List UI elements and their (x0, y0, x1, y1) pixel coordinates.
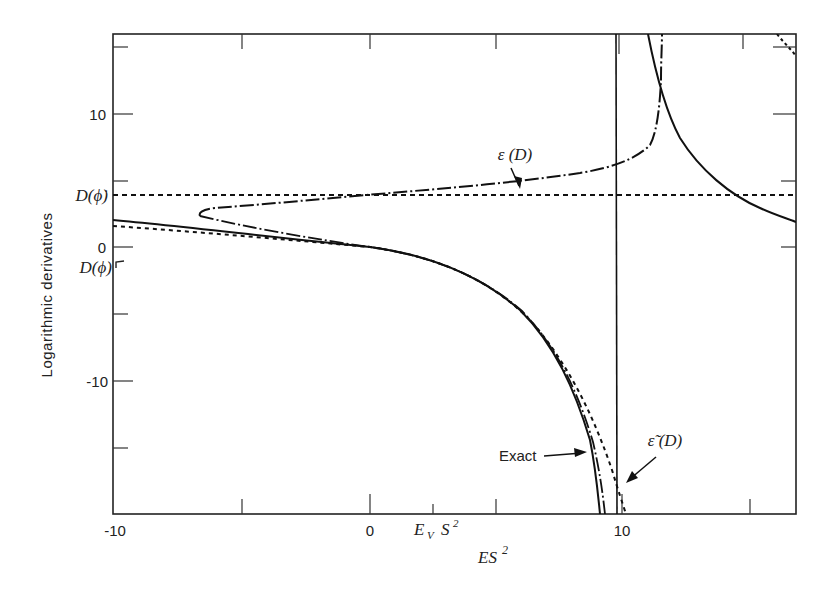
x-axis-title: ES 2 (477, 543, 508, 567)
y-tick-label-minus-10: -10 (86, 373, 108, 390)
epsilon-curve-lower (200, 216, 605, 514)
exact-curve (113, 220, 600, 514)
exact-arrowhead-icon (574, 448, 587, 457)
d-phidot-label: D(ϕ̇) (75, 186, 109, 205)
epsilon-annotation-label: ε (D) (498, 145, 533, 164)
epsilon-curve-upper (200, 34, 662, 216)
exact-curve-upper (648, 34, 796, 222)
svg-text:E: E (413, 520, 425, 539)
y-axis-ticks (113, 47, 133, 448)
x-tick-label-0: 0 (366, 522, 374, 539)
exact-annotation-label: Exact (499, 447, 537, 464)
plot-frame (113, 34, 796, 514)
y-axis-title: Logarithmic derivatives (38, 213, 55, 378)
svg-text:ES: ES (477, 548, 497, 567)
x-axis-ticks (242, 494, 750, 514)
epsilon-tilde-upper-fragment (777, 34, 796, 56)
asymptote-line (616, 34, 617, 514)
y-tick-label-10: 10 (89, 106, 106, 123)
x-tick-label-10: 10 (614, 522, 631, 539)
svg-text:V: V (427, 529, 435, 541)
svg-text:S: S (441, 520, 450, 539)
epsilon-tilde-annotation-label: ε̃ (D) (648, 431, 683, 450)
y-tick-label-0: 0 (98, 239, 106, 256)
x-tick-label-minus-10: -10 (104, 522, 126, 539)
svg-text:2: 2 (453, 517, 459, 529)
d-phi-label: D(ϕ) (79, 258, 113, 277)
svg-text:2: 2 (502, 543, 508, 557)
epsilon-arrowhead-icon (514, 176, 522, 189)
epsilon-tilde-curve (113, 226, 626, 514)
x-axis-ticks-top (242, 34, 743, 54)
logarithmic-derivatives-chart: 10 0 -10 D(ϕ̇) D(ϕ) Logarithmic derivati… (0, 0, 832, 595)
ev-s2-label: E V S 2 (413, 517, 459, 541)
d-phi-marker (116, 261, 124, 268)
